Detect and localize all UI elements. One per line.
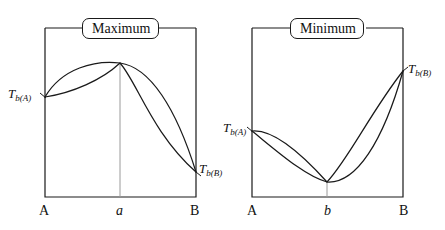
label-tb-b-maximum: Tb(B) xyxy=(199,161,222,178)
axis-label-a-left-maximum: A xyxy=(39,203,49,219)
axis-label-azeotrope-a: a xyxy=(116,203,123,219)
label-tb-a-maximum-subscript: b(A) xyxy=(15,93,31,103)
plot-frame-minimum xyxy=(252,28,403,197)
label-tb-a-minimum-subscript: b(A) xyxy=(230,127,246,137)
label-tb-b-minimum: Tb(B) xyxy=(408,61,431,78)
panel-title-maximum: Maximum xyxy=(82,18,159,39)
label-tb-a-minimum: Tb(A) xyxy=(223,120,246,137)
axis-label-b-right-minimum: B xyxy=(399,203,408,219)
label-tb-b-maximum-subscript: b(B) xyxy=(206,168,222,178)
panel-maximum: Maximum Tb(A) Tb(B) A a B xyxy=(0,0,223,230)
panel-minimum: Minimum Tb(A) Tb(B) A b B xyxy=(222,0,445,230)
axis-label-a-left-minimum: A xyxy=(247,203,257,219)
panel-title-minimum: Minimum xyxy=(290,18,364,39)
axis-label-azeotrope-b: b xyxy=(324,203,331,219)
curve-upper-minimum xyxy=(252,71,403,182)
curve-lower-minimum xyxy=(252,71,403,182)
label-tb-a-maximum: Tb(A) xyxy=(8,86,31,103)
axis-label-b-right-maximum: B xyxy=(190,203,199,219)
label-tb-b-minimum-subscript: b(B) xyxy=(415,68,431,78)
figure-root: Maximum Tb(A) Tb(B) A a B Minimum xyxy=(0,0,445,230)
